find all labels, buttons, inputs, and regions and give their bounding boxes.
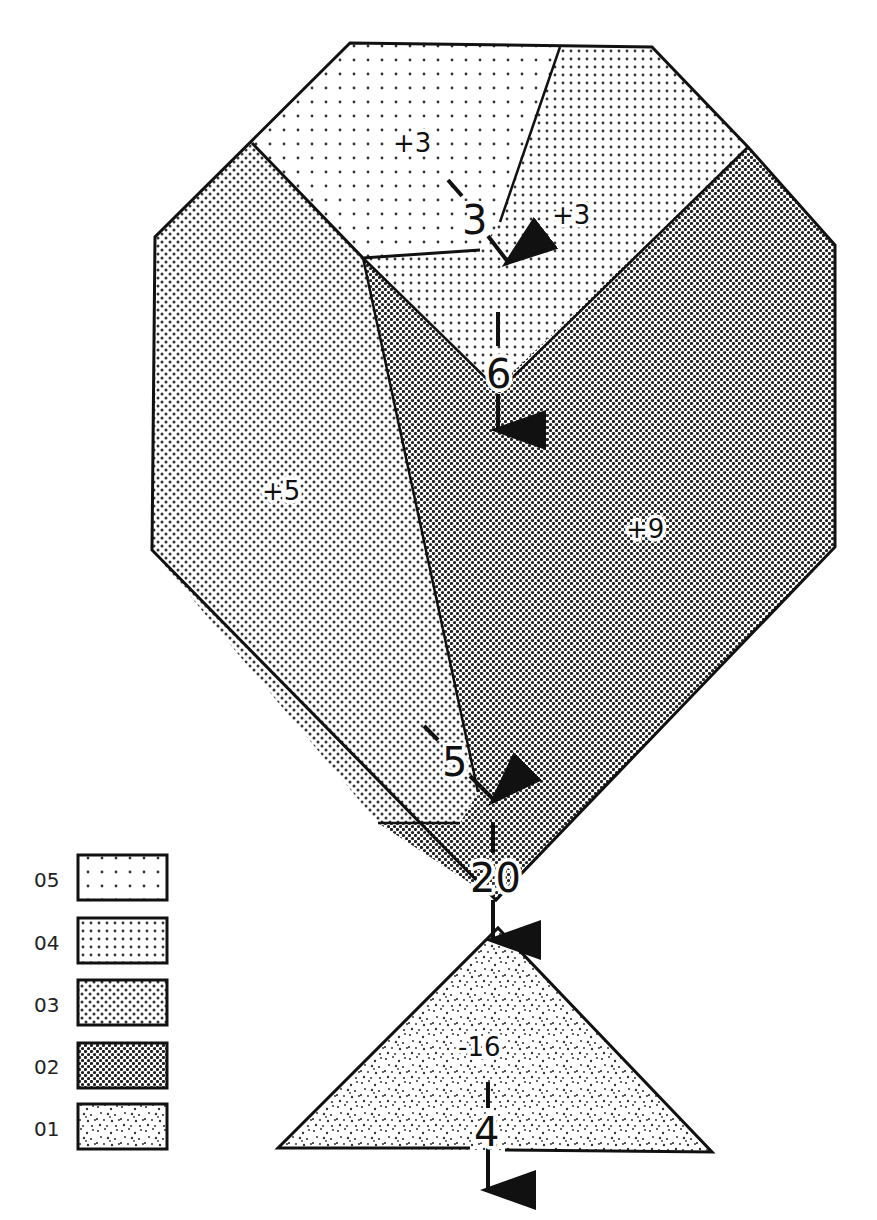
legend: 05 04 03 02 01 [34, 855, 167, 1149]
region-label-top-left: +3 [393, 128, 431, 158]
flow-diagram: +3 +3 +5 +9 -16 3 6 5 20 4 05 04 03 02 0… [0, 0, 877, 1220]
region-label-left: +5 [262, 476, 300, 506]
legend-label: 03 [34, 993, 59, 1017]
legend-label: 02 [34, 1055, 59, 1079]
legend-item-01: 01 [34, 1104, 167, 1149]
region-label-triangle: -16 [458, 1032, 500, 1062]
legend-label: 05 [34, 868, 59, 892]
legend-swatch [78, 1043, 167, 1088]
flow-label-e: 4 [474, 1109, 499, 1155]
flow-label-b: 6 [486, 351, 511, 397]
flow-label-d: 20 [470, 855, 521, 901]
legend-item-02: 02 [34, 1043, 167, 1088]
region-label-right: +9 [626, 514, 664, 544]
legend-swatch [78, 918, 167, 963]
legend-item-03: 03 [34, 980, 167, 1025]
legend-swatch [78, 980, 167, 1025]
flow-label-a: 3 [462, 197, 487, 243]
legend-swatch [78, 1104, 167, 1149]
legend-label: 04 [34, 931, 59, 955]
region-label-top-right: +3 [552, 200, 590, 230]
legend-item-05: 05 [34, 855, 167, 900]
flow-label-c: 5 [442, 739, 467, 785]
legend-item-04: 04 [34, 918, 167, 963]
legend-swatch [78, 855, 167, 900]
legend-label: 01 [34, 1117, 59, 1141]
